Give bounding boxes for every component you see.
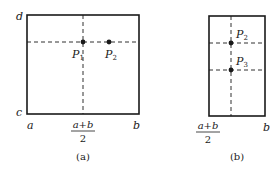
label-b-b: b <box>263 121 270 134</box>
label-p2: P2 <box>104 48 117 62</box>
diagram-canvas: P1 P2 d c a b a+b 2 (a) P2 P3 b a+b 2 (b… <box>0 0 278 174</box>
panel-b: P2 P3 b a+b 2 (b) <box>196 16 270 162</box>
label-p3: P3 <box>235 55 248 69</box>
label-p1: P1 <box>71 48 84 62</box>
panel-a: P1 P2 d c a b a+b 2 (a) <box>16 10 140 162</box>
label-b: b <box>133 119 140 132</box>
label-a: a <box>27 119 34 132</box>
caption-a: (a) <box>76 151 90 162</box>
caption-b: (b) <box>230 151 244 162</box>
label-c: c <box>16 106 22 119</box>
midpoint-numerator-a: a+b <box>73 119 94 130</box>
point-p2 <box>107 40 112 45</box>
midpoint-denominator-a: 2 <box>80 133 86 144</box>
midpoint-denominator-b: 2 <box>205 134 211 145</box>
label-p2-b: P2 <box>235 28 248 42</box>
midpoint-numerator-b: a+b <box>198 120 219 131</box>
point-p2-b <box>229 41 234 46</box>
point-p1 <box>81 40 86 45</box>
label-d: d <box>16 10 23 23</box>
point-p3 <box>229 68 234 73</box>
